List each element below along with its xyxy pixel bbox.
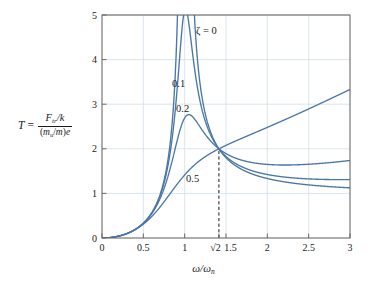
y-tick-label: 4 (92, 54, 97, 65)
x-axis-label-text: ω/ωn (192, 262, 214, 274)
denominator-m2: m (56, 127, 63, 137)
y-tick-label: 0 (92, 233, 97, 244)
curve-label-0p1: 0.1 (172, 78, 185, 89)
denominator-e: e (66, 127, 70, 137)
curve-label-0p2: 0.2 (176, 103, 189, 114)
curve-label-0p5: 0.5 (186, 173, 199, 184)
y-axis-label-lead: T (18, 119, 27, 131)
y-tick-label: 2 (92, 143, 97, 154)
x-tick-label: 1.5 (224, 242, 237, 253)
x-tick-label: 0 (100, 242, 105, 253)
curve-label-zeta-zero: ζ = 0 (196, 25, 217, 36)
x-tick-label: 2.5 (302, 242, 315, 253)
tick-labels: 01234500.51√21.522.53 (92, 10, 353, 253)
y-axis-label: T = Ftr/k (mu/m)e (18, 112, 100, 139)
y-axis-label-denominator: (mu/m)e (38, 127, 72, 138)
numerator-slash-k: /k (57, 112, 65, 123)
denominator-m: m (43, 127, 50, 137)
x-tick-label: 0.5 (137, 242, 150, 253)
curve-zeta-0 (102, 0, 181, 238)
x-tick-label: √2 (210, 242, 221, 253)
y-axis-label-equals: = (27, 119, 38, 131)
y-tick-label: 1 (92, 188, 97, 199)
x-axis-omega-ratio: ω/ω (192, 262, 211, 274)
x-tick-label: 2 (265, 242, 270, 253)
transmissibility-chart: 01234500.51√21.522.53 T = Ftr/k (mu/m)e … (0, 0, 371, 285)
x-axis-label: ω/ωn (0, 262, 371, 276)
y-tick-label: 3 (92, 99, 97, 110)
plot-area: 01234500.51√21.522.53 (0, 0, 371, 285)
x-axis-omega-subscript: n (211, 267, 215, 276)
gridlines (102, 15, 350, 238)
y-axis-label-fraction: Ftr/k (mu/m)e (38, 112, 72, 139)
x-tick-label: 3 (348, 242, 353, 253)
y-axis-label-numerator: Ftr/k (44, 112, 67, 126)
y-tick-label: 5 (92, 10, 97, 21)
x-tick-label: 1 (182, 242, 187, 253)
